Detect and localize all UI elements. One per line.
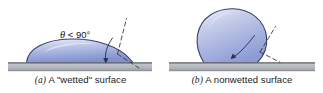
caption-index-b: (b) <box>192 75 206 85</box>
caption-text-b: A nonwetted surface <box>205 74 292 85</box>
caption-nonwetted-surface: (b) A nonwetted surface <box>161 74 323 85</box>
contact-angle-label-wetted: θ < 90° <box>60 29 90 40</box>
water-droplet-shape-wetted <box>27 39 134 63</box>
caption-wetted-surface: (a) A "wetted" surface <box>0 74 161 85</box>
contact-angle-figure: θ < 90° (a) A "wetted" surface <box>0 0 323 93</box>
solid-surface-bar-wetted <box>8 63 152 71</box>
solid-surface-bar-nonwetted <box>169 63 315 71</box>
reference-dashed-line-nonwetted <box>260 52 280 62</box>
caption-index-a: (a) <box>35 75 49 85</box>
panel-wetted-surface: θ < 90° (a) A "wetted" surface <box>0 0 161 93</box>
angle-value-wetted: 90° <box>76 29 90 40</box>
panel-nonwetted-surface: Water droplet θ > 90° (b) A nonwetted su… <box>161 0 323 93</box>
theta-symbol-wetted: θ <box>60 29 68 40</box>
angle-relation-wetted: < <box>68 29 76 40</box>
water-droplet-shape-nonwetted <box>197 9 267 63</box>
caption-text-a: A "wetted" surface <box>48 74 126 85</box>
reference-dashed-line-wetted <box>118 19 127 55</box>
